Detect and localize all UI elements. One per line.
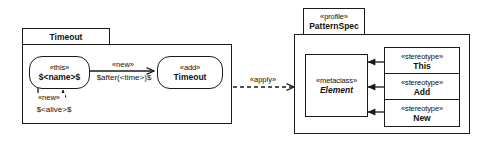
uml-diagram-canvas: Timeout «this» $<name>$ «add» Timeout «n… [0, 0, 488, 148]
stereotype-box-this[interactable]: «stereotype» This [384, 47, 460, 75]
stereotype-box-add[interactable]: «stereotype» Add [384, 73, 460, 101]
stereotype-this-keyword: «stereotype» [401, 52, 443, 61]
apply-dependency-label: «apply» [238, 75, 288, 84]
state-add-name: Timeout [174, 72, 207, 82]
transition-new-after-stereotype: «new» [96, 60, 150, 69]
transition-new-alive-guard: $<alive>$ [25, 105, 83, 114]
state-add-stereotype: «add» [180, 63, 200, 72]
transition-new-after-guard: $after(<time>)$ [88, 73, 160, 82]
metaclass-element-stereotype: «metaclass» [316, 76, 357, 85]
metaclass-element-box[interactable]: «metaclass» Element [305, 54, 368, 117]
left-package-tab-label: Timeout [50, 32, 83, 42]
state-node-add[interactable]: «add» Timeout [157, 56, 223, 89]
right-package-tab-label: PatternSpec [309, 21, 359, 31]
right-package-tab-stereotype: «profile» [320, 12, 348, 21]
state-this-stereotype: «this» [50, 63, 69, 72]
state-this-name: $<name>$ [39, 72, 81, 82]
stereotype-new-name: New [413, 113, 430, 123]
stereotype-box-new[interactable]: «stereotype» New [384, 99, 460, 127]
state-node-this[interactable]: «this» $<name>$ [29, 56, 90, 89]
left-package-tab[interactable]: Timeout [22, 28, 110, 45]
right-package-tab[interactable]: «profile» PatternSpec [303, 8, 365, 35]
metaclass-element-name: Element [320, 85, 353, 95]
transition-new-alive-stereotype: «new» [33, 93, 65, 102]
stereotype-this-name: This [413, 61, 430, 71]
stereotype-add-name: Add [414, 87, 431, 97]
stereotype-new-keyword: «stereotype» [401, 104, 443, 113]
stereotype-add-keyword: «stereotype» [401, 78, 443, 87]
